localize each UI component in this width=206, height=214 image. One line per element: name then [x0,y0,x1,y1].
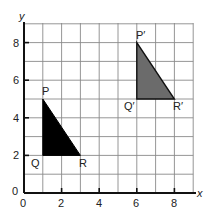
vertex-label-q: Q [31,157,40,169]
x-axis-label: x [196,187,203,199]
y-tick-label-0: 0 [12,185,18,197]
x-tick-label-2: 2 [58,197,64,209]
vertex-label-q-prime: Q′ [124,100,135,112]
vertex-label-p: P [42,85,49,97]
x-tick-label-6: 6 [133,197,139,209]
vertex-label-p-prime: P′ [136,29,145,41]
y-axis-label: y [18,10,26,22]
y-tick-label-8: 8 [13,37,19,49]
x-tick-label-0: 0 [20,197,26,209]
vertex-label-r: R [79,157,87,169]
y-tick-label-2: 2 [13,149,19,161]
coordinate-grid-diagram: y x 8 6 4 2 0 0 2 4 6 8 P Q R P′ Q′ R′ [0,0,206,214]
x-tick-label-8: 8 [171,197,177,209]
y-tick-label-4: 4 [13,112,19,124]
vertex-label-r-prime: R′ [173,100,183,112]
y-tick-label-6: 6 [13,74,19,86]
x-tick-label-4: 4 [96,197,102,209]
